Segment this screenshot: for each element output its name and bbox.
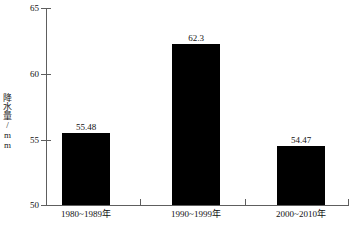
y-tick-inner-55 [47,140,51,141]
y-axis-line [46,8,47,206]
y-tick-label-55: 55 [17,136,39,145]
bar-value-1980-1989: 55.48 [56,122,116,132]
y-tick-inner-60 [47,74,51,75]
y-tick-inner-65 [47,8,51,9]
bar-2000-2010 [277,146,325,205]
y-tick-50 [41,205,46,206]
x-tick-3 [348,199,349,205]
y-tick-label-60: 60 [17,70,39,79]
x-tick-1 [140,199,141,205]
bar-1990-1999 [172,44,220,205]
x-tick-2 [245,199,246,205]
bar-chart: 降水量/mm 50 55 60 65 55.48 1980~1989年 62.3… [0,0,359,234]
y-tick-label-65: 65 [17,4,39,13]
y-tick-55 [41,140,46,141]
x-category-label-2000-2010: 2000~2010年 [251,209,351,220]
x-axis-line [46,205,349,206]
bar-value-1990-1999: 62.3 [166,33,226,43]
x-category-label-1990-1999: 1990~1999年 [146,209,246,220]
y-axis-title: 降水量/mm [0,84,14,158]
x-category-label-1980-1989: 1980~1989年 [36,209,136,220]
bar-value-2000-2010: 54.47 [271,135,331,145]
y-tick-65 [41,8,46,9]
bar-1980-1989 [62,133,110,205]
y-tick-60 [41,74,46,75]
